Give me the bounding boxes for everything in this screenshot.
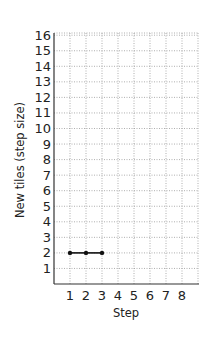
y-axis-label: New tiles (step size)	[13, 102, 27, 218]
y-tick-label: 15	[34, 43, 51, 58]
x-axis-label: Step	[113, 306, 139, 320]
y-tick-label: 6	[43, 183, 51, 198]
x-tick-label: 4	[114, 288, 122, 303]
x-tick-label: 3	[98, 288, 106, 303]
x-tick-label: 1	[66, 288, 74, 303]
y-tick-labels: 12345678910111213141516	[34, 28, 51, 276]
y-tick-label: 9	[43, 137, 51, 152]
y-tick-label: 1	[43, 261, 51, 276]
y-tick-label: 4	[43, 214, 51, 229]
y-tick-label: 8	[43, 152, 51, 167]
axes	[54, 33, 199, 284]
y-tick-label: 2	[43, 245, 51, 260]
data-point	[68, 251, 72, 255]
y-tick-label: 16	[34, 28, 51, 43]
y-tick-label: 7	[43, 168, 51, 183]
data-point	[84, 251, 88, 255]
y-tick-label: 3	[43, 230, 51, 245]
y-tick-label: 11	[34, 105, 51, 120]
x-tick-label: 5	[130, 288, 138, 303]
y-tick-label: 14	[34, 59, 51, 74]
x-tick-label: 7	[162, 288, 170, 303]
data-point	[100, 251, 104, 255]
y-tick-label: 13	[34, 74, 51, 89]
data-series	[68, 251, 104, 255]
x-tick-label: 8	[178, 288, 186, 303]
x-tick-labels: 12345678	[66, 288, 186, 303]
y-tick-label: 12	[34, 90, 51, 105]
x-tick-label: 2	[82, 288, 90, 303]
y-tick-label: 10	[34, 121, 51, 136]
y-tick-label: 5	[43, 199, 51, 214]
line-chart: 12345678910111213141516 12345678 Step Ne…	[0, 0, 211, 343]
x-tick-label: 6	[146, 288, 154, 303]
grid-lines	[54, 33, 199, 284]
